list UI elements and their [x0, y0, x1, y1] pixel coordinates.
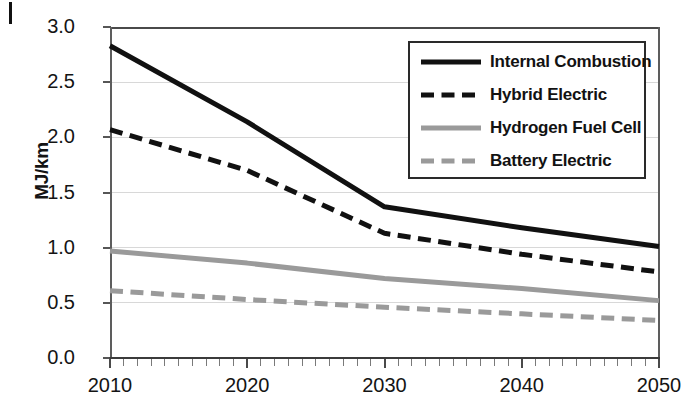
legend-item-label: Internal Combustion: [490, 52, 651, 72]
legend-item[interactable]: Hydrogen Fuel Cell: [410, 111, 644, 145]
legend-line-swatch: [420, 53, 482, 71]
legend-line-swatch: [420, 119, 482, 137]
legend-item-label: Battery Electric: [490, 151, 612, 171]
legend-line-swatch: [420, 152, 482, 170]
legend-item-label: Hydrogen Fuel Cell: [490, 118, 641, 138]
chart-figure: MJ/km 0.00.51.01.52.02.53.0 201020202030…: [0, 0, 691, 415]
legend-item-label: Hybrid Electric: [490, 85, 607, 105]
legend-item[interactable]: Hybrid Electric: [410, 78, 644, 112]
legend-item[interactable]: Battery Electric: [410, 144, 644, 178]
legend: Internal CombustionHybrid ElectricHydrog…: [408, 41, 646, 179]
legend-item[interactable]: Internal Combustion: [410, 45, 644, 79]
series-line: [110, 251, 659, 301]
legend-line-swatch: [420, 86, 482, 104]
